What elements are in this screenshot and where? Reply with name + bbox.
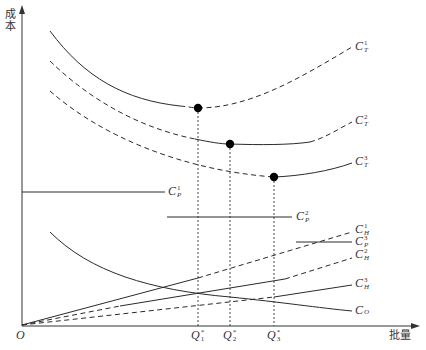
ct2-label: C 2T [355,114,368,128]
ct3-label: C 3T [355,155,368,169]
optimum-point-2 [226,140,234,148]
y-axis-arrow-icon [19,5,25,14]
optimum-point-3 [270,173,278,181]
ct3-curve [50,91,352,177]
q2-star-label: Q *2 [223,329,236,343]
origin-label: O [16,329,25,341]
cp2-label: C 2P [296,210,309,224]
co-curve [50,232,352,311]
cost-batch-diagram: 成本 批量 O Q *1 Q *2 Q *3 C 1T C 2T C 3T C … [0,0,426,350]
ch1-line [22,232,352,325]
optimum-point-1 [194,104,202,112]
ch1-label: C 1H [355,223,369,237]
ch2-label: C 2H [355,248,369,262]
q3-star-label: Q *3 [267,329,280,343]
ct1-curve [50,31,352,108]
y-axis-label: 成本 [4,8,15,32]
co-label: C O [355,304,369,316]
ct1-label: C 1T [355,40,368,54]
optimal-points [194,104,278,181]
q1-star-label: Q *1 [191,329,204,343]
x-axis-arrow-icon [411,323,420,329]
ch3-label: C 3H [355,277,369,291]
cp1-label: C 1P [168,185,181,199]
x-axis-label: 批量 [389,330,411,341]
